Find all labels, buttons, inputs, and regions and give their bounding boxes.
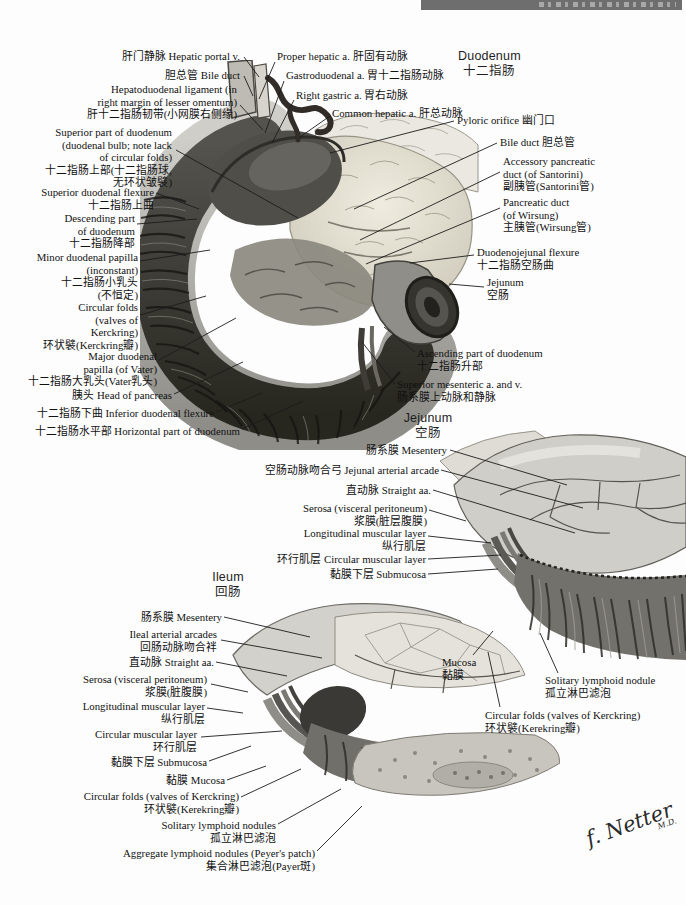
label-hepatic-portal-vein: 肝门静脉 Hepatic portal v. (122, 50, 240, 63)
label-jejunum-solitary-lymphoid-nodule: Solitary lymphoid nodule 孤立淋巴滤泡 (545, 674, 655, 699)
label-ileum-longitudinal-layer: Longitudinal muscular layer 纵行肌层 (83, 700, 205, 725)
label-minor-duodenal-papilla: Minor duodenal papilla (inconstant) 十二指肠… (37, 251, 138, 301)
label-superior-part-duodenum: Superior part of duodenum (duodenal bulb… (45, 126, 172, 189)
label-jejunal-arterial-arcade: 空肠动脉吻合弓 Jejunal arterial arcade (265, 464, 439, 477)
label-ascending-part-duodenum: Ascending part of duodenum 十二指肠升部 (417, 347, 543, 372)
label-proper-hepatic-artery: Proper hepatic a. 肝固有动脉 (277, 50, 408, 63)
artist-signature: f. Netter M.D. (583, 797, 678, 855)
label-pancreatic-duct: Pancreatic duct (of Wirsung) 主胰管(Wirsung… (503, 196, 591, 234)
label-descending-part-duodenum: Descending part of duodenum 十二指肠降部 (65, 212, 135, 250)
label-ileum-mesentery: 肠系膜 Mesentery (141, 611, 222, 624)
label-ileum-submucosa: 黏膜下层 Submucosa (111, 756, 207, 769)
label-gastroduodenal-artery: Gastroduodenal a. 胃十二指肠动脉 (286, 69, 444, 82)
label-ileum-circular-layer: Circular muscular layer 环行肌层 (95, 728, 197, 753)
label-jejunum-pointer: Jejunum 空肠 (487, 276, 524, 301)
label-ileum-circular-folds: Circular folds (valves of Kerckring) 环状襞… (84, 790, 239, 815)
label-accessory-pancreatic-duct: Accessory pancreatic duct (of Santorini)… (503, 155, 595, 193)
label-duodenojejunal-flexure: Duodenojejunal flexure 十二指肠空肠曲 (477, 246, 579, 271)
label-jejunum-circular-folds: Circular folds (valves of Kerckring) 环状襞… (485, 709, 640, 734)
label-major-duodenal-papilla: Major duodenal papilla (of Vater) 十二指肠大乳… (28, 350, 157, 388)
header-bar-text-marks (539, 2, 676, 7)
label-jejunum-longitudinal-layer: Longitudinal muscular layer 纵行肌层 (304, 527, 426, 552)
label-jejunum-submucosa: 黏膜下层 Submucosa (330, 568, 426, 581)
label-horizontal-part-duodenum: 十二指肠水平部 Horizontal part of duodenum (35, 425, 240, 438)
label-inferior-duodenal-flexure: 十二指肠下曲 Inferior duodenal flexure (37, 407, 214, 420)
section-title-duodenum: Duodenum 十二指肠 (458, 49, 520, 79)
label-circular-folds-duodenum: Circular folds (valves of Kerckring) 环状襞… (43, 301, 138, 351)
label-head-of-pancreas: 胰头 Head of pancreas (72, 389, 172, 402)
ileum-illustration (215, 595, 560, 807)
label-bile-duct-left: 胆总管 Bile duct (165, 69, 240, 82)
label-jejunum-circular-layer: 环行肌层 Circular muscular layer (277, 553, 426, 566)
atlas-page: Duodenum 十二指肠 Jejunum 空肠 Ileum 回肠 肝门静脉 H… (0, 0, 686, 905)
label-right-gastric-artery: Right gastric a. 胃右动脉 (296, 89, 408, 102)
label-superior-duodenal-flexure: Superior duodenal flexure 十二指肠上曲 (41, 186, 154, 211)
label-pyloric-orifice: Pyloric orifice 幽门口 (457, 114, 555, 127)
label-ileum-mucosa: 黏膜 Mucosa (166, 774, 225, 787)
header-bar (421, 0, 682, 10)
label-jejunum-straight-arteries: 直动脉 Straight aa. (346, 484, 431, 497)
label-hepatoduodenal-ligament: Hepatoduodenal ligament (in right margin… (87, 83, 237, 121)
label-bile-duct-right: Bile duct 胆总管 (500, 136, 575, 149)
label-ileum-serosa: Serosa (visceral peritoneum) 浆膜(脏腹膜) (83, 673, 207, 698)
label-superior-mesenteric-vessels: Superior mesenteric a. and v. 肠系膜上动脉和静脉 (397, 378, 522, 403)
label-jejunum-mesentery: 肠系膜 Mesentery (366, 444, 447, 457)
section-title-jejunum: Jejunum 空肠 (402, 411, 454, 441)
label-jejunum-mucosa: Mucosa 黏膜 (442, 656, 476, 681)
section-title-ileum: Ileum 回肠 (203, 570, 253, 600)
label-aggregate-lymphoid-nodules: Aggregate lymphoid nodules (Peyer's patc… (123, 847, 315, 872)
label-common-hepatic-artery: Common hepatic a. 肝总动脉 (332, 107, 463, 120)
label-ileal-arterial-arcades: Ileal arterial arcades 回肠动脉吻合袢 (129, 628, 217, 653)
label-ileum-straight-arteries: 直动脉 Straight aa. (129, 656, 214, 669)
label-ileum-solitary-lymphoid-nodules: Solitary lymphoid nodules 孤立淋巴滤泡 (161, 819, 276, 844)
label-jejunum-serosa: Serosa (visceral peritoneum) 浆膜(脏层腹膜) (303, 502, 427, 527)
